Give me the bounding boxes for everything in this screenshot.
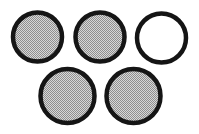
circle-shape-bottom-right <box>107 69 161 123</box>
circles-figure <box>0 0 199 134</box>
figure-canvas <box>0 0 199 134</box>
circle-shape-top-right <box>137 14 186 63</box>
circle-shape-bottom-left <box>41 69 95 123</box>
circle-shape-top-center <box>76 13 125 62</box>
circle-shape-top-left <box>13 13 62 62</box>
